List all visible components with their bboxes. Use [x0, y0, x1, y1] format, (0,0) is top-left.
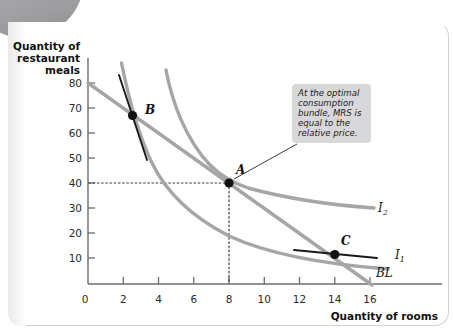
y-tick-label-20: 20 — [69, 227, 82, 239]
x-axis-tick-labels: 0 2 4 6 8 10 12 14 16 — [82, 293, 377, 305]
data-point-c-label: C — [341, 234, 351, 248]
curve-label-i2: I2 — [377, 201, 388, 217]
annotation-line-4: equal to the — [298, 118, 350, 128]
y-tick-label-30: 30 — [69, 202, 82, 214]
data-point-a[interactable] — [224, 178, 233, 187]
curve-label-bl: BL — [375, 266, 393, 280]
x-tick-label-10: 10 — [258, 293, 271, 305]
guide-lines — [89, 183, 229, 283]
annotation-line-3: bundle, MRS is — [298, 108, 362, 118]
x-tick-label-0: 0 — [82, 293, 89, 305]
y-tick-label-40: 40 — [69, 177, 82, 189]
x-tick-label-4: 4 — [155, 293, 162, 305]
x-tick-label-2: 2 — [120, 293, 127, 305]
curve-label-i1: I1 — [394, 248, 405, 264]
data-point-b-label: B — [144, 103, 155, 117]
curve-labels: I2 I1 BL — [375, 201, 405, 280]
y-axis-tick-labels: 10 20 30 40 50 60 70 80 — [69, 77, 82, 264]
annotation-line-2: consumption — [298, 98, 354, 108]
figure-page: 10 20 30 40 50 60 70 80 0 2 4 6 8 10 12 … — [0, 0, 453, 332]
y-axis-title-line1: Quantity of — [13, 40, 80, 52]
y-axis-title-line2: restaurant — [17, 52, 80, 64]
y-axis-ticks — [88, 83, 95, 258]
y-tick-label-60: 60 — [69, 127, 82, 139]
data-point-b[interactable] — [128, 111, 137, 120]
x-tick-label-14: 14 — [328, 293, 342, 305]
x-tick-label-8: 8 — [226, 293, 233, 305]
annotation-callout: At the optimal consumption bundle, MRS i… — [234, 84, 371, 179]
x-axis-ticks — [123, 277, 370, 284]
x-tick-label-6: 6 — [190, 293, 197, 305]
chart-canvas: 10 20 30 40 50 60 70 80 0 2 4 6 8 10 12 … — [0, 0, 453, 332]
y-axis-title-line3: meals — [45, 64, 80, 76]
y-tick-label-10: 10 — [69, 252, 82, 264]
data-point-a-label: A — [235, 163, 245, 177]
x-axis-title: Quantity of rooms — [331, 310, 438, 322]
annotation-leader-line — [234, 144, 297, 179]
annotation-line-1: At the optimal — [297, 88, 360, 98]
y-tick-label-70: 70 — [69, 102, 82, 114]
data-point-c[interactable] — [330, 250, 339, 259]
y-tick-label-80: 80 — [69, 77, 82, 89]
y-tick-label-50: 50 — [69, 152, 82, 164]
annotation-line-5: relative price. — [298, 128, 357, 138]
x-tick-label-16: 16 — [363, 293, 377, 305]
x-tick-label-12: 12 — [293, 293, 306, 305]
